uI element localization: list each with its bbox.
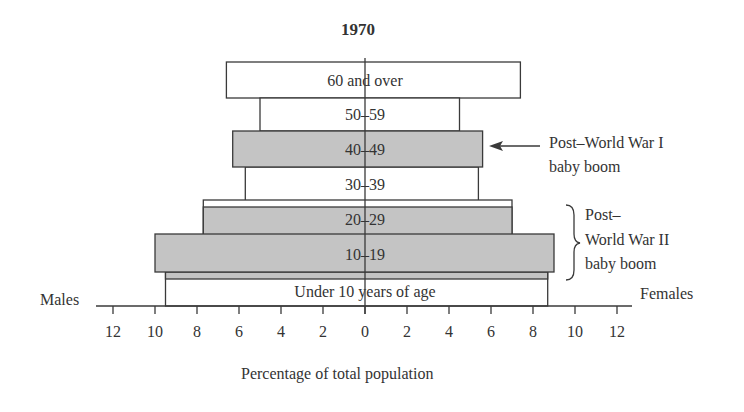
x-tick-label: 8 [193, 323, 201, 340]
males-label: Males [40, 291, 79, 309]
x-tick-label: 12 [609, 323, 625, 340]
x-tick-label: 10 [147, 323, 163, 340]
x-tick-label: 12 [105, 323, 121, 340]
ww2-brace-icon [566, 205, 580, 280]
x-tick-label: 10 [567, 323, 583, 340]
annotation-ww2-line1: Post– [585, 206, 621, 224]
annotation-ww1-line2: baby boom [549, 158, 621, 176]
annotation-ww2-line2: World War II [585, 231, 669, 249]
annotation-ww1-line1: Post–World War I [549, 134, 663, 152]
x-tick-label: 2 [319, 323, 327, 340]
annotation-ww2-line3: baby boom [585, 255, 657, 273]
x-tick-label: 6 [235, 323, 243, 340]
chart-title: 1970 [341, 20, 375, 40]
x-tick-label: 0 [361, 323, 369, 340]
x-tick-label: 4 [445, 323, 453, 340]
x-axis-label: Percentage of total population [241, 365, 433, 383]
x-tick-label: 2 [403, 323, 411, 340]
x-tick-label: 8 [529, 323, 537, 340]
population-pyramid-chart: 60 and over50–5940–4930–3920–2910–19Unde… [0, 0, 744, 412]
bar-under-10-strip [166, 272, 548, 279]
x-tick-label: 4 [277, 323, 285, 340]
x-tick-label: 6 [487, 323, 495, 340]
females-label: Females [640, 285, 693, 303]
